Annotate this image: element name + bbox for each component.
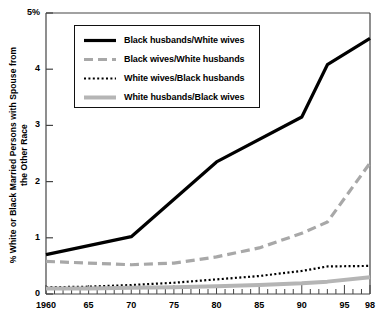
y-tick-label: 4	[35, 64, 44, 73]
legend-swatch-icon	[84, 73, 116, 84]
legend-label: White husbands/Black wives	[124, 92, 244, 102]
x-tick-label: 90	[282, 300, 322, 310]
legend-item: White husbands/Black wives	[84, 90, 244, 104]
legend-swatch-icon	[84, 92, 116, 103]
legend-item: Black husbands/White wives	[84, 33, 244, 47]
y-axis-label: % White or Black Married Persons with Sp…	[8, 40, 30, 270]
y-tick-label: 3	[35, 120, 44, 129]
legend-label: Black wives/White husbands	[124, 54, 244, 64]
x-tick-label: 75	[154, 300, 194, 310]
series-line-2	[46, 266, 370, 287]
y-tick-label: 2	[35, 177, 44, 186]
legend-label: Black husbands/White wives	[124, 35, 244, 45]
legend-label: White wives/Black husbands	[124, 73, 244, 83]
y-tick-label: 5%	[27, 8, 44, 17]
y-tick-label: 1	[35, 233, 44, 242]
legend-swatch-icon	[84, 54, 116, 65]
x-tick-label: 98	[350, 300, 378, 310]
x-tick-label: 80	[197, 300, 237, 310]
x-tick-label: 70	[111, 300, 151, 310]
chart-legend: Black husbands/White wivesBlack wives/Wh…	[74, 25, 260, 108]
x-tick-label: 1960	[26, 300, 66, 310]
chart-container: % White or Black Married Persons with Sp…	[0, 0, 378, 323]
x-tick-label: 65	[69, 300, 109, 310]
legend-swatch-icon	[84, 35, 116, 46]
series-line-1	[46, 163, 370, 265]
y-tick-label: 0	[35, 289, 44, 298]
legend-item: White wives/Black husbands	[84, 71, 244, 85]
legend-item: Black wives/White husbands	[84, 52, 244, 66]
x-tick-label: 85	[239, 300, 279, 310]
series-line-3	[46, 277, 370, 288]
